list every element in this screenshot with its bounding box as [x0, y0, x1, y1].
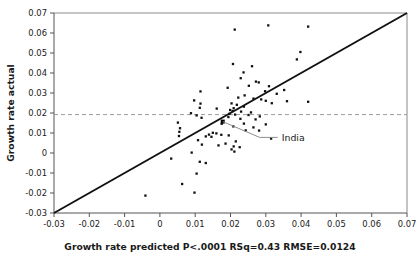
- data-point: [271, 102, 273, 104]
- data-point: [252, 97, 254, 99]
- y-tick-label: 0: [42, 148, 47, 158]
- annotation-leader-line: [223, 122, 278, 138]
- data-point: [220, 134, 222, 136]
- plot-svg: India -0.03-0.02-0.0100.010.020.030.040.…: [0, 0, 420, 261]
- data-point: [255, 80, 257, 82]
- data-point: [230, 102, 232, 104]
- data-point: [276, 93, 278, 95]
- data-point: [307, 25, 309, 27]
- data-point: [215, 132, 217, 134]
- y-tick-label: 0.07: [28, 8, 47, 18]
- data-point: [200, 117, 202, 119]
- y-tick-label: -0.03: [25, 208, 47, 218]
- data-point: [227, 116, 229, 118]
- data-point: [195, 172, 197, 174]
- y-tick-label: 0.05: [28, 48, 47, 58]
- data-point: [307, 101, 309, 103]
- y-tick-label: -0.01: [25, 168, 47, 178]
- data-point: [239, 118, 241, 120]
- data-point: [240, 110, 242, 112]
- y-tick-label: 0.06: [28, 28, 47, 38]
- data-point: [243, 122, 245, 124]
- x-tick-label: 0.02: [221, 219, 240, 229]
- data-point: [267, 24, 269, 26]
- data-point: [235, 140, 237, 142]
- data-point: [233, 145, 235, 147]
- data-point: [264, 90, 266, 92]
- data-point: [217, 144, 219, 146]
- x-tick-label: 0.05: [327, 219, 346, 229]
- data-point: [233, 107, 235, 109]
- x-axis-title: Growth rate predicted P<.0001 RSq=0.43 R…: [64, 241, 355, 252]
- data-point: [236, 104, 238, 106]
- x-axis-tick-labels: -0.03-0.02-0.0100.010.020.030.040.050.06…: [43, 219, 416, 229]
- data-point: [179, 127, 181, 129]
- x-tick-label: 0.07: [398, 219, 417, 229]
- x-tick-label: 0.06: [362, 219, 381, 229]
- data-point: [208, 133, 210, 135]
- data-point: [195, 114, 197, 116]
- data-point: [299, 51, 301, 53]
- data-point: [205, 162, 207, 164]
- data-point: [260, 98, 262, 100]
- x-axis-ticks: [54, 213, 407, 217]
- y-tick-label: 0.03: [28, 88, 47, 98]
- data-point: [197, 139, 199, 141]
- data-point: [258, 129, 260, 131]
- data-point: [247, 114, 249, 116]
- data-point: [258, 81, 260, 83]
- data-point: [233, 150, 235, 152]
- data-point: [216, 107, 218, 109]
- data-point: [234, 113, 236, 115]
- data-point: [205, 135, 207, 137]
- data-point: [199, 107, 201, 109]
- data-point: [178, 135, 180, 137]
- annotation-label-india: India: [282, 132, 305, 143]
- y-tick-label: 0.02: [28, 108, 47, 118]
- x-tick-label: 0.01: [186, 219, 205, 229]
- data-point: [228, 113, 230, 115]
- data-point: [199, 102, 201, 104]
- data-point: [251, 65, 253, 67]
- x-tick-label: 0.04: [292, 219, 311, 229]
- data-point: [232, 63, 234, 65]
- data-point: [252, 126, 254, 128]
- data-point: [144, 194, 146, 196]
- data-point: [237, 96, 239, 98]
- scatter-points: [144, 24, 309, 197]
- x-tick-label: -0.01: [114, 219, 136, 229]
- scatter-plot-figure: India -0.03-0.02-0.0100.010.020.030.040.…: [0, 0, 420, 261]
- data-point: [190, 112, 192, 114]
- data-point: [201, 143, 203, 145]
- x-tick-label: -0.02: [78, 219, 100, 229]
- data-point: [210, 136, 212, 138]
- data-point: [212, 132, 214, 134]
- data-point: [268, 85, 270, 87]
- x-tick-label: 0: [157, 219, 162, 229]
- data-point: [193, 99, 195, 101]
- data-point: [248, 85, 250, 87]
- data-point: [265, 123, 267, 125]
- data-point: [230, 148, 232, 150]
- data-point: [243, 94, 245, 96]
- data-point: [250, 111, 252, 113]
- x-tick-label: -0.03: [43, 219, 65, 229]
- data-point: [283, 89, 285, 91]
- data-point: [199, 90, 201, 92]
- data-point: [254, 118, 256, 120]
- y-tick-label: 0.01: [28, 128, 47, 138]
- y-axis-title: Growth rate actual: [5, 64, 16, 161]
- data-point: [178, 131, 180, 133]
- data-point: [227, 87, 229, 89]
- data-point: [181, 183, 183, 185]
- data-point: [243, 105, 245, 107]
- data-point: [231, 110, 233, 112]
- data-point: [265, 100, 267, 102]
- data-point: [177, 121, 179, 123]
- annotation-india: India: [223, 122, 305, 144]
- data-point: [229, 109, 231, 111]
- data-point: [193, 191, 195, 193]
- data-point: [286, 100, 288, 102]
- data-point: [199, 161, 201, 163]
- y-axis-ticks: [50, 13, 54, 213]
